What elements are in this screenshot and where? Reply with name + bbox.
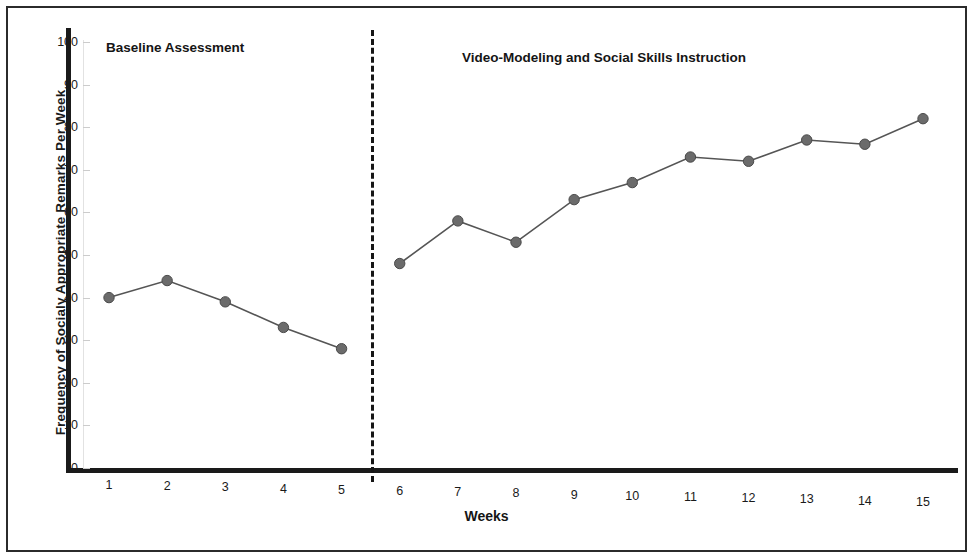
y-minor-tick [83, 42, 90, 43]
y-minor-tick [83, 85, 90, 86]
x-tick-label: 15 [903, 495, 943, 509]
y-tick-label: 90 [38, 78, 78, 92]
y-minor-tick [83, 383, 90, 384]
y-minor-tick [83, 425, 90, 426]
x-tick-label: 5 [322, 483, 362, 497]
x-tick-label: 1 [89, 478, 129, 492]
x-tick-label: 9 [554, 488, 594, 502]
x-axis-title: Weeks [0, 508, 973, 524]
y-tick-label: 80 [38, 120, 78, 134]
y-minor-tick [83, 212, 90, 213]
phase-caption-intervention: Video-Modeling and Social Skills Instruc… [462, 50, 746, 65]
y-tick-label: 60 [38, 205, 78, 219]
y-tick-label: 50 [38, 248, 78, 262]
x-tick-label: 4 [263, 482, 303, 496]
y-tick-label: 10 [38, 418, 78, 432]
y-axis-line [66, 28, 71, 472]
chart-page: Frequency of Socialy Appropriate Remarks… [0, 0, 973, 558]
y-tick-label: 20 [38, 376, 78, 390]
x-tick-label: 13 [787, 492, 827, 506]
x-tick-label: 12 [729, 491, 769, 505]
x-axis-line [66, 468, 958, 473]
inner-grid-guide [83, 40, 949, 468]
phase-change-line [371, 30, 374, 482]
y-minor-tick [83, 340, 90, 341]
y-minor-tick [83, 170, 90, 171]
y-minor-tick [83, 298, 90, 299]
x-tick-label: 8 [496, 486, 536, 500]
y-minor-tick [83, 127, 90, 128]
phase-caption-baseline: Baseline Assessment [106, 40, 244, 55]
x-tick-label: 7 [438, 485, 478, 499]
y-tick-label: 30 [38, 333, 78, 347]
y-tick-label: 100 [38, 35, 78, 49]
y-minor-tick [83, 468, 90, 469]
x-tick-label: 3 [205, 480, 245, 494]
y-tick-label: 40 [38, 291, 78, 305]
x-tick-label: 2 [147, 479, 187, 493]
x-tick-label: 11 [670, 490, 710, 504]
y-tick-label: 70 [38, 163, 78, 177]
x-tick-label: 6 [380, 484, 420, 498]
x-tick-label: 14 [845, 494, 885, 508]
y-minor-tick [83, 255, 90, 256]
x-tick-label: 10 [612, 489, 652, 503]
